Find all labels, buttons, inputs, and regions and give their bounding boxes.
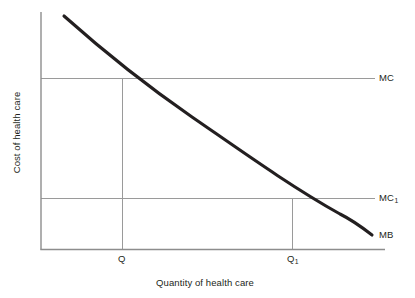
x-tick-label-q1: Q1 — [287, 253, 298, 264]
chart-figure: Cost of health care Quantity of health c… — [0, 0, 415, 298]
series-label-mc: MC — [379, 72, 394, 83]
series-label-mc1-base: MC — [379, 192, 394, 203]
series-label-mb: MB — [379, 229, 394, 240]
x-tick-label-q1-base: Q — [287, 253, 294, 264]
chart-plot-area — [0, 0, 415, 298]
series-curve-mb — [64, 16, 372, 235]
x-tick-label-q1-subscript: 1 — [295, 258, 299, 265]
y-axis-title: Cost of health care — [11, 73, 22, 193]
series-label-mc1-subscript: 1 — [394, 197, 398, 204]
x-tick-label-q: Q — [118, 253, 125, 264]
x-axis-title: Quantity of health care — [130, 277, 280, 288]
series-label-mc1: MC1 — [379, 192, 398, 203]
